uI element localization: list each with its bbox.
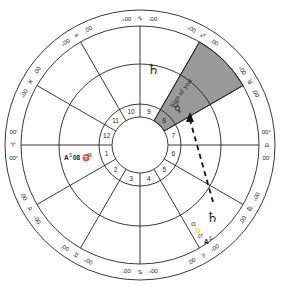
degree-text: 00° [238, 64, 248, 75]
progression-arrow [190, 120, 213, 202]
degree-text: 00' [210, 38, 220, 47]
degree-text: 00° [209, 243, 220, 253]
sagittarius-glyph-icon: ♐ [199, 31, 207, 40]
house-number-12: 12 [103, 132, 111, 139]
pisces-glyph-icon: ♓ [26, 78, 35, 86]
degree-text: 00' [10, 129, 18, 135]
house-cusp-line [81, 169, 127, 248]
house-cusp-line [37, 159, 116, 205]
house-number-9: 9 [147, 108, 151, 115]
degree-text: 00° [148, 268, 158, 274]
house-number-ring-inner [112, 117, 168, 173]
house-number-4: 4 [147, 175, 151, 182]
degree-text: 00' [19, 192, 28, 202]
house-cusp-line [81, 42, 127, 121]
svg-text:S: S [209, 236, 212, 241]
house-number-1: 1 [105, 150, 109, 157]
house-number-2: 2 [114, 166, 118, 173]
scorpio-glyph-icon: ♏ [245, 77, 254, 86]
degree-text: 00° [19, 88, 29, 99]
sign-label-capricorn: 00°♑00' [122, 15, 158, 22]
gemini-glyph-icon: ♊ [72, 251, 80, 260]
degree-text: 00° [186, 24, 197, 34]
leo-glyph-icon: ♌ [200, 251, 208, 260]
svg-text:07: 07 [198, 234, 204, 239]
taurus-glyph-icon: ♉ [25, 205, 34, 213]
house-number-8: 8 [163, 117, 167, 124]
degree-text: 00° [9, 155, 19, 161]
degree-text: 00° [32, 214, 42, 225]
aries-glyph-icon: ♈ [10, 141, 16, 148]
svg-text:♌: ♌ [195, 227, 201, 233]
svg-text:46: 46 [87, 153, 93, 158]
sign-label-cancer: 00°♋00' [123, 268, 158, 276]
degree-text: 00' [262, 155, 270, 161]
degree-text: 00' [60, 243, 70, 252]
degree-text: 00° [251, 191, 261, 202]
sign-label-libra: 00°♎00' [262, 129, 272, 162]
degree-text: 00' [187, 256, 197, 265]
degree-text: 00' [251, 88, 260, 98]
aquarius-glyph-icon: ♒ [73, 31, 81, 40]
degree-text: 00° [59, 37, 70, 47]
chart-wheel: 00°♈00'00°♉00'00°♊00'00°♋00'00°♌00'00°♍0… [0, 0, 282, 289]
degree-text: 00' [149, 16, 157, 22]
cancer-glyph-icon: ♋ [137, 269, 142, 276]
house-number-6: 6 [172, 150, 176, 157]
degree-text: 00° [262, 129, 272, 135]
house-number-5: 5 [163, 166, 167, 173]
degree-text: 00° [122, 16, 132, 22]
virgo-glyph-icon: ♍ [245, 204, 255, 213]
svg-text:S: S [69, 153, 72, 158]
sign-of-year-wedge [154, 42, 243, 131]
sign-label-virgo: 00°♍00' [238, 191, 261, 224]
house-number-10: 10 [127, 108, 135, 115]
capricorn-glyph-icon: ♑ [137, 15, 142, 22]
degree-text: 00' [123, 268, 131, 274]
libra-glyph-icon: ♎ [264, 141, 269, 148]
sign-label-taurus: 00°♉00' [19, 192, 42, 225]
svg-text:01: 01 [191, 222, 197, 227]
degree-text: 00' [33, 65, 42, 75]
saturn-glyph-lower: ♄ [206, 209, 219, 225]
house-number-11: 11 [112, 117, 119, 124]
house-cusp-line [37, 86, 116, 132]
degree-text: 00' [83, 24, 93, 33]
house-number-3: 3 [129, 175, 133, 182]
sign-label-leo: 00°♌00' [187, 243, 220, 266]
degree-text: 00' [238, 215, 247, 225]
degree-text: 00° [82, 256, 93, 266]
house-number-7: 7 [172, 132, 176, 139]
ascendant-left: A S 08 ♈ 46 [64, 153, 93, 162]
sign-label-aries: 00°♈00' [9, 129, 19, 162]
house-cusp-line [154, 169, 200, 248]
saturn-glyph-upper: ♄ [147, 61, 160, 77]
sign-label-gemini: 00°♊00' [60, 243, 93, 266]
